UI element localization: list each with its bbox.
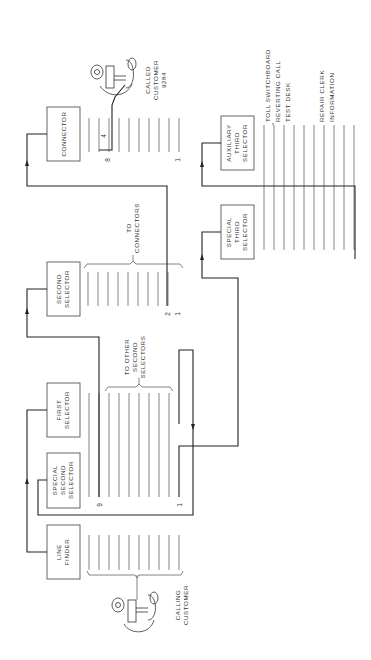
special-second-selector-block: SPECIAL SECOND SELECTOR <box>47 453 80 508</box>
svg-text:FINDER: FINDER <box>63 539 70 566</box>
level-number-9: 9 <box>96 503 103 507</box>
second-selector-block: SECOND SELECTOR <box>47 262 80 316</box>
arrow-up-icon <box>200 254 204 260</box>
special-second-label-3: SELECTOR <box>67 461 74 499</box>
line-finder-label-2: FINDER <box>63 539 70 566</box>
called-customer-label: CALLED CUSTOMER 9284 <box>144 60 167 100</box>
special-second-label-1: SPECIAL <box>51 465 58 495</box>
second-selector-label-1: SECOND <box>55 274 62 304</box>
to-connectors-label: TO CONNECTORS <box>125 203 140 253</box>
svg-text:SELECTOR: SELECTOR <box>67 461 74 499</box>
wire-level-1-to-special-third <box>179 232 238 497</box>
svg-text:TO: TO <box>125 223 132 233</box>
level-number-1: 1 <box>174 158 181 162</box>
called-customer-telephone-icon <box>91 58 136 95</box>
reverting-call-label: REVERTING CALL <box>274 60 281 122</box>
first-selector-contact-bank <box>89 393 169 497</box>
arrow-down-icon <box>191 424 195 430</box>
svg-text:SELECTOR: SELECTOR <box>241 213 248 251</box>
second-selector-contact-bank <box>88 272 168 306</box>
aux-third-label-2: THIRD <box>233 132 240 154</box>
level-number-1: 1 <box>176 503 183 507</box>
svg-text:SELECTOR: SELECTOR <box>63 270 70 308</box>
line-finder-block: LINE FINDER <box>47 525 80 579</box>
level-number-1: 1 <box>174 312 181 316</box>
arrow-up-icon <box>25 478 29 484</box>
level-number-4: 4 <box>100 134 107 138</box>
svg-text:SELECTOR: SELECTOR <box>63 391 70 429</box>
auxiliary-third-contact-bank <box>264 125 354 185</box>
svg-text:SPECIAL: SPECIAL <box>51 465 58 495</box>
special-third-label-3: SELECTOR <box>241 213 248 251</box>
to-other-second-selectors-brace <box>105 384 173 391</box>
special-third-label-2: THIRD <box>233 221 240 243</box>
to-other-second-selectors-label: TO OTHER SECOND SELECTORS <box>123 336 146 379</box>
aux-selector-destinations: TOLL SWITCHBOARD REVERTING CALL TEST DES… <box>264 49 335 125</box>
svg-text:TO OTHER: TO OTHER <box>123 339 130 376</box>
svg-text:SPECIAL: SPECIAL <box>225 217 232 247</box>
special-third-label-1: SPECIAL <box>225 217 232 247</box>
special-third-contact-bank <box>264 185 354 250</box>
svg-text:CUSTOMER: CUSTOMER <box>182 585 189 625</box>
auxiliary-third-selector-block: AUXILIARY THIRD SELECTOR <box>221 116 254 170</box>
toll-switchboard-label: TOLL SWITCHBOARD <box>264 49 271 122</box>
svg-text:9284: 9284 <box>160 72 167 88</box>
connector-block: CONNECTOR <box>47 107 80 161</box>
svg-text:SECOND: SECOND <box>55 274 62 304</box>
calling-customer-label: CALLING CUSTOMER <box>174 585 189 625</box>
special-third-selector-block: SPECIAL THIRD SELECTOR <box>221 205 254 259</box>
information-label: INFORMATION <box>328 73 335 122</box>
svg-text:CONNECTORS: CONNECTORS <box>133 203 140 253</box>
aux-third-label-3: SELECTOR <box>241 124 248 162</box>
line-finder-brace <box>87 571 183 578</box>
wire-line-finder-to-first-selector <box>27 410 47 552</box>
svg-text:CUSTOMER: CUSTOMER <box>152 60 159 100</box>
second-selector-label-2: SELECTOR <box>63 270 70 308</box>
arrow-up-icon <box>25 160 29 166</box>
level-number-8: 8 <box>104 158 111 162</box>
svg-text:LINE: LINE <box>55 544 62 560</box>
svg-text:FIRST: FIRST <box>55 400 62 421</box>
svg-text:THIRD: THIRD <box>233 132 240 154</box>
svg-text:SECOND: SECOND <box>131 342 138 372</box>
svg-text:SECOND: SECOND <box>59 465 66 495</box>
line-finder-contact-bank <box>89 535 179 570</box>
special-second-label-2: SECOND <box>59 465 66 495</box>
first-selector-label-2: SELECTOR <box>63 391 70 429</box>
connector-label: CONNECTOR <box>60 111 67 156</box>
to-connectors-brace <box>84 261 183 268</box>
first-selector-label-1: FIRST <box>55 400 62 421</box>
arrow-up-icon <box>200 161 204 167</box>
repair-clerk-label: REPAIR CLERK <box>318 70 325 122</box>
first-selector-block: FIRST SELECTOR <box>47 383 80 437</box>
calling-customer-telephone-icon <box>112 592 158 632</box>
svg-text:CALLED: CALLED <box>144 66 151 94</box>
level-number-2: 2 <box>164 312 171 316</box>
line-finder-label-1: LINE <box>55 544 62 560</box>
svg-text:SELECTOR: SELECTOR <box>241 124 248 162</box>
svg-text:SELECTORS: SELECTORS <box>139 336 146 379</box>
svg-text:THIRD: THIRD <box>233 221 240 243</box>
arrow-up-icon <box>25 308 29 314</box>
aux-third-label-1: AUXILIARY <box>225 124 232 162</box>
test-desk-label: TEST DESK <box>284 82 291 122</box>
step-by-step-switching-diagram: LINE FINDER SPECIAL SECOND SELECTOR FIRS… <box>0 0 371 660</box>
svg-text:AUXILIARY: AUXILIARY <box>225 124 232 162</box>
svg-text:CALLING: CALLING <box>174 590 181 621</box>
svg-text:CONNECTOR: CONNECTOR <box>60 111 67 156</box>
